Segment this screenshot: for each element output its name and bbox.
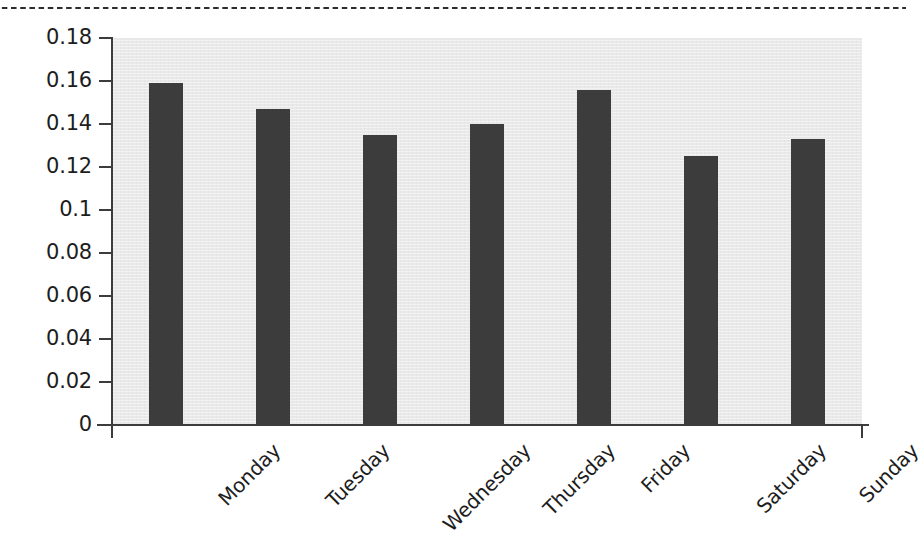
x-tick-mark	[111, 426, 113, 438]
bar-wednesday	[363, 135, 397, 425]
x-tick-label-wednesday: Wednesday	[439, 440, 534, 535]
bar-sunday	[791, 139, 825, 425]
y-tick-mark	[99, 209, 112, 211]
y-tick-label: 0.14	[0, 113, 92, 134]
bar-tuesday	[256, 109, 290, 425]
y-tick-label: 0.06	[0, 285, 92, 306]
y-tick-label: 0.16	[0, 70, 92, 91]
top-dotted-divider	[0, 6, 906, 10]
y-tick-label: 0.18	[0, 27, 92, 48]
x-tick-label-friday: Friday	[638, 440, 694, 496]
y-tick-mark	[99, 252, 112, 254]
y-tick-mark	[99, 166, 112, 168]
x-tick-mark	[861, 426, 863, 438]
x-tick-label-saturday: Saturday	[753, 440, 830, 517]
x-tick-label-monday: Monday	[214, 440, 283, 509]
y-tick-mark	[99, 37, 112, 39]
y-tick-label: 0	[0, 414, 92, 435]
bar-monday	[149, 83, 183, 425]
y-tick-label: 0.04	[0, 328, 92, 349]
y-tick-mark	[99, 123, 112, 125]
bar-friday	[577, 90, 611, 425]
bar-saturday	[684, 156, 718, 425]
y-axis-line	[111, 37, 113, 427]
y-tick-label: 0.08	[0, 242, 92, 263]
y-tick-label: 0.1	[0, 199, 92, 220]
x-tick-label-tuesday: Tuesday	[322, 440, 393, 511]
y-tick-mark	[99, 295, 112, 297]
bar-thursday	[470, 124, 504, 425]
y-tick-mark	[99, 338, 112, 340]
y-tick-mark	[99, 381, 112, 383]
x-tick-label-thursday: Thursday	[540, 440, 619, 519]
y-tick-label: 0.02	[0, 371, 92, 392]
x-tick-label-sunday: Sunday	[856, 440, 922, 506]
y-tick-mark	[99, 80, 112, 82]
y-tick-label: 0.12	[0, 156, 92, 177]
